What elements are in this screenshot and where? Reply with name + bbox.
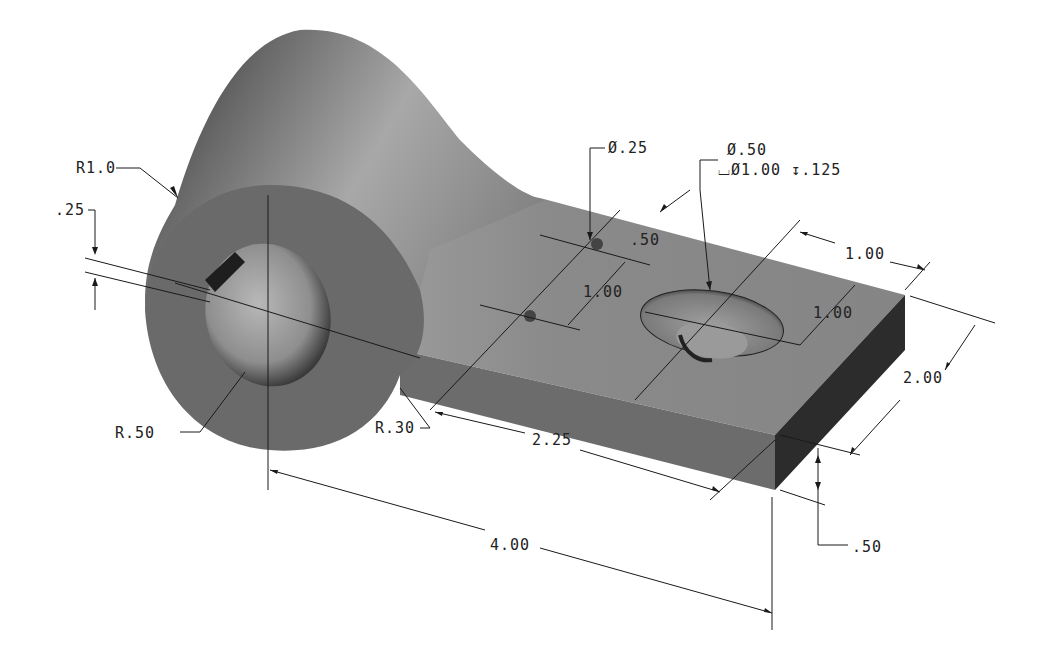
- dim-large-hole-diameter: Ø.50: [727, 142, 767, 158]
- dim-cylinder-radius: R1.0: [76, 160, 116, 176]
- dim-small-hole-offset: 1.00: [583, 284, 623, 300]
- dim-small-hole-spacing: .50: [630, 232, 660, 248]
- dim-counterbore: ⌴Ø1.00 ↧.125: [718, 162, 841, 178]
- dim-small-hole-diameter: Ø.25: [608, 140, 648, 156]
- dim-plate-width: 2.00: [903, 370, 943, 386]
- dim-plate-length: 2.25: [532, 432, 572, 448]
- dim-plate-thickness: .50: [852, 539, 882, 555]
- dim-overall-length: 4.00: [490, 537, 530, 553]
- dim-bore-radius: R.50: [115, 425, 155, 441]
- dim-large-hole-from-end: 1.00: [845, 246, 885, 262]
- cad-drawing-canvas: [0, 0, 1053, 661]
- dim-slot-width: .25: [55, 202, 85, 218]
- dim-fillet-radius: R.30: [375, 420, 415, 436]
- dim-large-hole-from-edge: 1.00: [813, 305, 853, 321]
